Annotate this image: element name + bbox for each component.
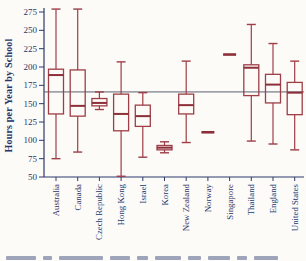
box-england-iqr <box>266 74 281 103</box>
box-new-zealand-iqr <box>179 94 194 114</box>
y-tick-label: 150 <box>24 99 38 109</box>
y-tick-label: 175 <box>24 80 38 90</box>
x-category-label: Canada <box>73 184 83 210</box>
y-tick-label: 250 <box>24 25 38 35</box>
x-category-label: Israel <box>138 183 148 203</box>
y-tick-label: 75 <box>28 154 38 164</box>
box-thailand-iqr <box>244 65 259 96</box>
x-category-label: Norway <box>203 183 213 212</box>
x-category-label: United States <box>290 183 300 231</box>
y-tick-label: 100 <box>24 135 38 145</box>
box-canada-iqr <box>70 70 85 116</box>
x-category-label: Thailand <box>246 183 256 215</box>
x-category-label: England <box>268 183 278 213</box>
cropped-caption-fragment <box>6 256 300 261</box>
y-tick-label: 275 <box>24 7 38 17</box>
x-category-label: Hong Kong <box>116 183 126 225</box>
boxplot-figure: Hours per Year by School 507510012515017… <box>0 0 306 261</box>
y-tick-label: 225 <box>24 44 38 54</box>
x-category-label: New Zealand <box>181 183 191 231</box>
y-tick-label: 50 <box>28 172 38 182</box>
x-category-label: Australia <box>51 184 61 216</box>
boxplot-chart: 5075100125150175200225250275AustraliaCan… <box>0 0 306 261</box>
x-category-label: Czech Republic <box>94 184 104 240</box>
box-united-states-iqr <box>287 82 302 114</box>
box-hong-kong-iqr <box>114 94 129 131</box>
y-tick-label: 125 <box>24 117 38 127</box>
x-category-label: Singapore <box>225 184 235 220</box>
x-category-label: Korea <box>160 184 170 206</box>
y-tick-label: 200 <box>24 62 38 72</box>
